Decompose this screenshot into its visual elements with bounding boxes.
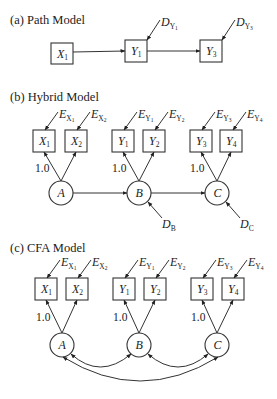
panel-b: (b) Hybrid ModelX1X2Y1Y2Y3Y4ABCEX1EX2EY1… [10, 90, 263, 233]
fixed-loading-label: 1.0 [191, 311, 206, 323]
error-arrow [45, 112, 58, 130]
error-arrow [77, 112, 90, 130]
factor-label: A [58, 338, 67, 352]
latent-factor-b: B [127, 333, 151, 357]
loading-arrow [217, 152, 231, 181]
panel-title: (c) CFA Model [10, 241, 86, 255]
error-term-label: EY1 [138, 255, 155, 271]
observed-variable-x2: X2 [65, 130, 87, 152]
loading-arrow [139, 152, 154, 181]
latent-factor-b: B [127, 181, 151, 205]
observed-variable-y1: Y1 [125, 40, 147, 62]
latent-factor-a: A [50, 333, 74, 357]
error-term-label: EY4 [246, 107, 263, 123]
error-arrow [155, 112, 168, 130]
observed-variable-x1: X1 [51, 43, 73, 64]
fixed-loading-label: 1.0 [35, 162, 50, 174]
observed-variable-y1: Y1 [112, 130, 134, 152]
factor-label: B [136, 186, 144, 200]
disturbance-label: DY3 [235, 15, 253, 31]
latent-factor-c: C [205, 333, 229, 357]
loading-arrow [62, 300, 77, 333]
error-term-label: EX1 [58, 107, 75, 123]
loading-arrow [61, 152, 76, 181]
error-arrow [234, 260, 247, 278]
error-term-label: EY3 [215, 107, 232, 123]
sem-diagram: (a) Path ModelX1Y1Y3DY1DY3(b) Hybrid Mod… [0, 0, 277, 399]
error-term-label: EY1 [137, 107, 154, 123]
observed-variable-y2: Y2 [143, 130, 165, 152]
factor-label: B [136, 338, 144, 352]
error-arrow [156, 260, 169, 278]
factor-label: C [214, 186, 223, 200]
fixed-loading-label: 1.0 [113, 311, 128, 323]
error-term-label: EY2 [169, 255, 186, 271]
panel-a: (a) Path ModelX1Y1Y3DY1DY3 [10, 13, 253, 64]
panel-title: (a) Path Model [10, 13, 86, 27]
observed-variable-y3: Y3 [200, 40, 222, 62]
disturbance-arrow [226, 202, 240, 218]
observed-variable-x1: X1 [33, 130, 55, 152]
error-arrow [124, 112, 137, 130]
latent-factor-a: A [49, 181, 73, 205]
factor-label: A [57, 186, 66, 200]
observed-variable-y2: Y2 [144, 278, 166, 300]
disturbance-arrow [222, 20, 235, 40]
observed-variable-y4: Y4 [220, 130, 242, 152]
observed-variable-x2: X2 [66, 278, 88, 300]
disturbance-arrow [148, 202, 162, 218]
observed-variable-y4: Y4 [222, 278, 244, 300]
disturbance-label: DB [161, 217, 176, 233]
loading-arrow [139, 300, 155, 333]
covariance-arc [148, 354, 208, 367]
observed-variable-y3: Y3 [190, 130, 212, 152]
error-arrow [233, 112, 246, 130]
observed-variable-x1: X1 [35, 278, 57, 300]
fixed-loading-label: 1.0 [112, 162, 127, 174]
observed-variable-y3: Y3 [191, 278, 213, 300]
covariance-arc [63, 357, 218, 381]
disturbance-label: DY1 [160, 15, 178, 31]
error-arrow [78, 260, 91, 278]
covariance-arc [71, 354, 131, 367]
error-arrow [125, 260, 138, 278]
path-arrow [73, 51, 125, 52]
error-term-label: EX2 [90, 107, 107, 123]
disturbance-arrow [147, 20, 160, 40]
error-arrow [202, 112, 215, 130]
panel-c: (c) CFA ModelX1X2Y1Y2Y3Y4ABCEX1EX2EY1EY2… [10, 241, 264, 381]
error-arrow [47, 260, 60, 278]
disturbance-label: DC [239, 217, 254, 233]
observed-variable-y1: Y1 [113, 278, 135, 300]
panel-title: (b) Hybrid Model [10, 90, 99, 104]
error-arrow [203, 260, 216, 278]
error-term-label: EY2 [168, 107, 185, 123]
latent-factor-c: C [205, 181, 229, 205]
fixed-loading-label: 1.0 [190, 162, 205, 174]
error-term-label: EX1 [60, 255, 77, 271]
error-term-label: EY4 [247, 255, 264, 271]
fixed-loading-label: 1.0 [36, 311, 51, 323]
error-term-label: EY3 [216, 255, 233, 271]
factor-label: C [214, 338, 223, 352]
loading-arrow [217, 300, 233, 333]
error-term-label: EX2 [91, 255, 108, 271]
